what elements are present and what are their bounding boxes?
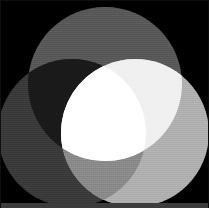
venn-diagram-image [0,0,209,208]
venn-diagram-canvas [0,0,209,208]
bottom-edge-strip [0,203,209,208]
